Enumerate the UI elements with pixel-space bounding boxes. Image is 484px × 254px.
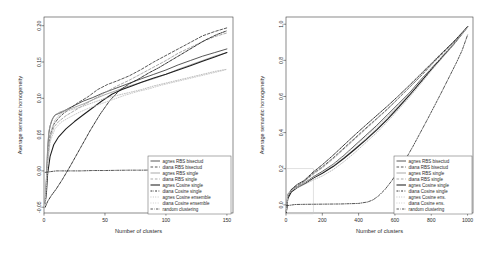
y-axis-title: Average semantic homogeneity: [259, 76, 265, 154]
y-axis-title: Average semantic homogeneity: [17, 76, 23, 154]
legend-label: diana RBS single: [409, 177, 444, 182]
legend-label: random clustering: [163, 207, 199, 212]
y-tick-label: 0.10: [36, 93, 42, 103]
y-tick-label: 0.2: [278, 165, 284, 172]
y-tick-label: 0.8: [278, 57, 284, 64]
left-chart-panel: 050100150-0.050.000.050.100.150.20Number…: [0, 0, 242, 254]
legend-label: random clustering: [409, 207, 445, 212]
x-tick-label: 0: [285, 217, 288, 223]
x-tick-label: 1000: [462, 217, 473, 223]
y-tick-label: 1.0: [278, 21, 284, 28]
y-tick-label: 0.15: [36, 57, 42, 67]
y-tick-label: 0.05: [36, 129, 42, 139]
y-tick-label: 0.4: [278, 129, 284, 136]
legend-label: diana Cosine single: [409, 189, 449, 194]
x-tick-label: 100: [162, 217, 171, 223]
x-axis-title: Number of clusters: [356, 228, 403, 234]
legend-label: agnes RBS bisectud: [409, 159, 450, 164]
y-tick-label: -0.05: [36, 201, 42, 213]
x-tick-label: 0: [43, 217, 46, 223]
plot-area: 050100150-0.050.000.050.100.150.20Number…: [0, 0, 242, 254]
plot-area: 020040060080010000.00.20.40.60.81.0Numbe…: [242, 0, 484, 254]
legend-label: agnes RBS single: [409, 171, 445, 176]
y-tick-label: 0.0: [278, 201, 284, 208]
y-tick-label: 0.6: [278, 93, 284, 100]
legend-label: agnes RBS single: [163, 171, 199, 176]
legend-label: agnes Cosine single: [409, 183, 450, 188]
figure-two-panel-line-charts: 050100150-0.050.000.050.100.150.20Number…: [0, 0, 484, 254]
x-axis-title: Number of clusters: [115, 228, 162, 234]
legend-label: diana Cosine ens.: [409, 201, 445, 206]
y-tick-label: 0.20: [36, 21, 42, 31]
x-tick-label: 150: [223, 217, 232, 223]
y-tick-label: 0.00: [36, 166, 42, 176]
legend-label: diana RBS bisectud: [163, 165, 203, 170]
x-tick-label: 200: [318, 217, 327, 223]
x-tick-label: 600: [391, 217, 400, 223]
legend-label: diana RBS single: [163, 177, 198, 182]
legend-label: diana Cosine single: [163, 189, 203, 194]
legend-label: agnes Cosine single: [163, 183, 204, 188]
legend-label: diana Cosine ensemble: [163, 201, 211, 206]
legend-label: agnes RBS bisectud: [163, 159, 204, 164]
legend-label: agnes Cosine ens.: [409, 195, 446, 200]
legend-label: diana RBS bisectud: [409, 165, 449, 170]
x-tick-label: 50: [102, 217, 108, 223]
legend-label: agnes Cosine ensemble: [163, 195, 212, 200]
x-tick-label: 400: [354, 217, 363, 223]
x-tick-label: 800: [427, 217, 436, 223]
right-chart-panel: 020040060080010000.00.20.40.60.81.0Numbe…: [242, 0, 484, 254]
